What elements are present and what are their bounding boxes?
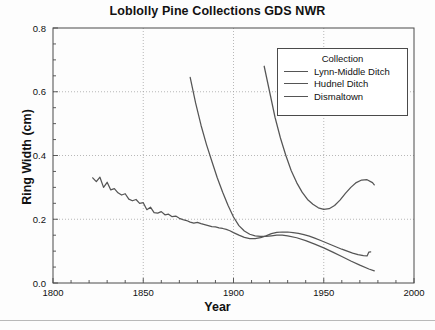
legend-item-label: Hudnel Ditch <box>314 78 368 89</box>
legend-item-label: Lynn-Middle Ditch <box>314 66 390 77</box>
svg-text:1900: 1900 <box>223 287 244 298</box>
legend-swatch-icon <box>284 96 308 97</box>
legend-item[interactable]: Hudnel Ditch <box>284 78 407 89</box>
chart-page: Loblolly Pine Collections GDS NWR 180018… <box>0 0 435 330</box>
legend-item-label: Dismaltown <box>314 91 363 102</box>
legend-item[interactable]: Lynn-Middle Ditch <box>284 66 407 77</box>
svg-text:1950: 1950 <box>313 287 334 298</box>
footer-divider <box>0 320 435 321</box>
svg-text:0.4: 0.4 <box>33 150 46 161</box>
svg-text:0.8: 0.8 <box>33 23 46 34</box>
svg-text:0.2: 0.2 <box>33 214 46 225</box>
svg-text:2000: 2000 <box>403 287 424 298</box>
x-axis-label: Year <box>0 300 435 314</box>
legend-title: Collection <box>278 53 407 64</box>
svg-text:1800: 1800 <box>42 287 63 298</box>
legend-item[interactable]: Dismaltown <box>284 91 407 102</box>
legend: Collection Lynn-Middle Ditch Hudnel Ditc… <box>277 48 408 116</box>
svg-text:1850: 1850 <box>133 287 154 298</box>
legend-swatch-icon <box>284 83 308 84</box>
svg-text:0.6: 0.6 <box>33 86 46 97</box>
y-axis-label: Ring Width (cm) <box>20 97 34 217</box>
legend-swatch-icon <box>284 71 308 72</box>
svg-text:0.0: 0.0 <box>33 278 46 289</box>
